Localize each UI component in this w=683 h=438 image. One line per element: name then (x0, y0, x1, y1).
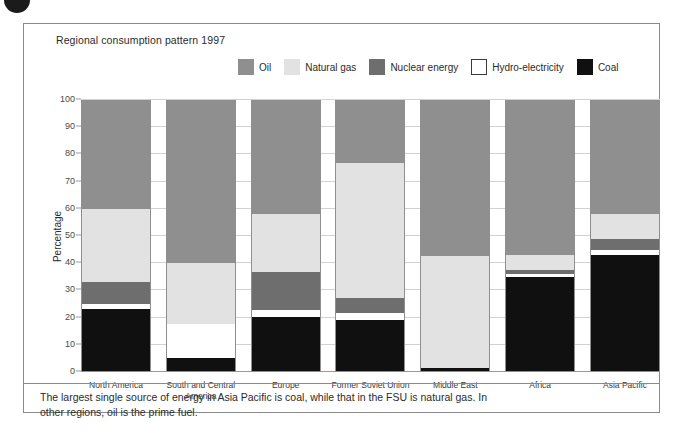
legend-item-label: Hydro-electricity (492, 62, 564, 73)
chart-title: Regional consumption pattern 1997 (56, 34, 225, 46)
bar-segment-hydro-electricity[interactable] (167, 324, 235, 358)
bar-segment-nuclear-energy[interactable] (336, 298, 404, 313)
x-axis-category-label: North America (73, 372, 159, 391)
legend-item-label: Oil (259, 62, 271, 73)
bar-column[interactable]: Former Soviet Union (335, 100, 405, 372)
bar-segment-natural-gas[interactable] (167, 263, 235, 324)
bar-stack (81, 100, 151, 372)
legend-swatch-icon (577, 59, 593, 75)
bar-segment-natural-gas[interactable] (82, 209, 150, 282)
legend-swatch-icon (471, 59, 487, 75)
bar-stack (335, 100, 405, 372)
bar-segment-natural-gas[interactable] (252, 214, 320, 272)
figure-frame: Regional consumption pattern 1997 OilNat… (23, 23, 660, 413)
x-axis-category-label: Africa (497, 372, 583, 391)
legend-item: Natural gas (284, 59, 356, 75)
bar-segment-nuclear-energy[interactable] (591, 239, 659, 250)
legend-item-label: Nuclear energy (390, 62, 458, 73)
legend-swatch-icon (238, 59, 254, 75)
bar-segment-oil[interactable] (506, 101, 574, 255)
legend-item-label: Natural gas (305, 62, 356, 73)
bar-segment-hydro-electricity[interactable] (252, 310, 320, 317)
bar-group: North AmericaSouth and Central AmericaEu… (81, 100, 660, 372)
bar-column[interactable]: South and Central America (166, 100, 236, 372)
bar-stack (590, 100, 660, 372)
bar-segment-coal[interactable] (421, 368, 489, 371)
bar-segment-hydro-electricity[interactable] (336, 313, 404, 320)
bar-segment-coal[interactable] (506, 277, 574, 372)
legend-item: Nuclear energy (369, 59, 458, 75)
plot-area: 0102030405060708090100 North AmericaSout… (81, 100, 660, 372)
chart-legend: OilNatural gasNuclear energyHydro-electr… (238, 59, 618, 75)
bar-stack (505, 100, 575, 372)
bar-segment-natural-gas[interactable] (591, 214, 659, 238)
bar-segment-coal[interactable] (336, 320, 404, 371)
bar-segment-oil[interactable] (421, 101, 489, 256)
bar-segment-coal[interactable] (591, 255, 659, 371)
bar-segment-oil[interactable] (591, 101, 659, 214)
legend-item: Hydro-electricity (471, 59, 564, 75)
bar-segment-oil[interactable] (252, 101, 320, 214)
x-axis-category-label: Asia Pacific (582, 372, 668, 391)
bar-segment-natural-gas[interactable] (421, 256, 489, 368)
bar-segment-natural-gas[interactable] (506, 255, 574, 270)
legend-item: Coal (577, 59, 619, 75)
y-axis-title-label: Percentage (52, 210, 63, 261)
bar-column[interactable]: Africa (505, 100, 575, 372)
bar-segment-coal[interactable] (167, 358, 235, 372)
bar-segment-oil[interactable] (167, 101, 235, 263)
bar-segment-coal[interactable] (252, 317, 320, 371)
legend-item: Oil (238, 59, 271, 75)
x-axis-category-label: Middle East (412, 372, 498, 391)
bar-segment-nuclear-energy[interactable] (252, 272, 320, 310)
bar-segment-oil[interactable] (82, 101, 150, 209)
bar-segment-oil[interactable] (336, 101, 404, 163)
x-axis-category-label: Europe (243, 372, 329, 391)
legend-swatch-icon (369, 59, 385, 75)
bar-column[interactable]: Asia Pacific (590, 100, 660, 372)
corner-badge-icon (4, 0, 30, 13)
caption-divider (23, 383, 660, 384)
legend-swatch-icon (284, 59, 300, 75)
bar-column[interactable]: North America (81, 100, 151, 372)
bar-column[interactable]: Middle East (420, 100, 490, 372)
bar-stack (251, 100, 321, 372)
bar-column[interactable]: Europe (251, 100, 321, 372)
bar-segment-natural-gas[interactable] (336, 163, 404, 298)
legend-item-label: Coal (598, 62, 619, 73)
figure-caption: The largest single source of energy in A… (40, 390, 510, 420)
x-axis-category-label: Former Soviet Union (327, 372, 413, 391)
bar-stack (166, 100, 236, 372)
bar-stack (420, 100, 490, 372)
bar-segment-coal[interactable] (82, 309, 150, 371)
bar-segment-nuclear-energy[interactable] (82, 282, 150, 304)
